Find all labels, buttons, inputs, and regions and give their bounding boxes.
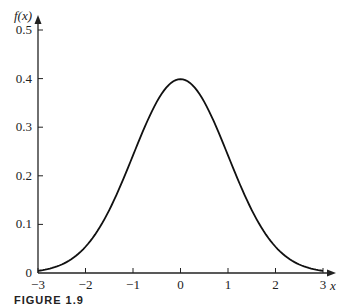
- chart-canvas: −3−2−10123 00.10.20.30.40.5 x f(x): [0, 0, 355, 305]
- x-axis-label: x: [329, 278, 336, 293]
- y-tick-label: 0.1: [16, 216, 32, 231]
- y-axis-label: f(x): [14, 8, 32, 23]
- x-tick-label: −1: [126, 277, 140, 292]
- x-tick-label: 1: [225, 277, 232, 292]
- x-tick-label: 0: [177, 277, 184, 292]
- y-tick-label: 0.2: [16, 168, 32, 183]
- y-tick-label: 0.4: [16, 71, 33, 86]
- y-tick-label: 0: [26, 265, 33, 280]
- x-tick-label: 2: [272, 277, 279, 292]
- x-tick-label: 3: [320, 277, 327, 292]
- figure-caption: FIGURE 1.9: [14, 294, 84, 305]
- y-ticks: 00.10.20.30.40.5: [16, 22, 43, 280]
- x-axis-arrow-icon: [327, 270, 336, 277]
- density-curve: [38, 79, 323, 271]
- y-tick-label: 0.5: [16, 22, 32, 37]
- y-tick-label: 0.3: [16, 119, 32, 134]
- y-axis-arrow-icon: [35, 15, 42, 24]
- x-tick-label: −2: [79, 277, 93, 292]
- x-ticks: −3−2−10123: [31, 268, 326, 292]
- x-tick-label: −3: [31, 277, 45, 292]
